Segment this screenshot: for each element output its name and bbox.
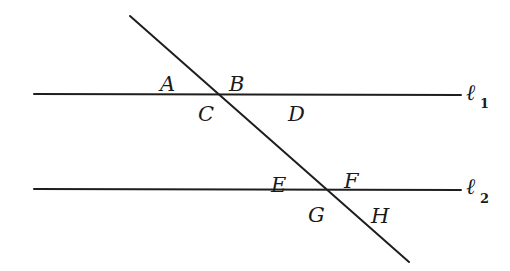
- line-label-l1: ℓ: [466, 80, 476, 105]
- angle-label-d: D: [287, 102, 305, 126]
- angle-label-a: A: [158, 72, 175, 96]
- background: [0, 0, 510, 271]
- angle-label-g: G: [308, 203, 325, 227]
- line-l2: [34, 189, 461, 190]
- angle-label-c: C: [198, 102, 214, 126]
- angle-label-e: E: [270, 173, 286, 197]
- line-label-l2: ℓ: [466, 174, 476, 199]
- angle-label-f: F: [343, 169, 360, 193]
- line-label-l1-subscript: 1: [480, 96, 489, 111]
- angle-label-b: B: [228, 72, 244, 96]
- angle-label-h: H: [370, 204, 390, 228]
- line-l1: [34, 94, 461, 95]
- line-label-l2-subscript: 2: [480, 191, 489, 206]
- parallel-lines-transversal-diagram: A B C D E F G H ℓ 1 ℓ 2: [0, 0, 510, 271]
